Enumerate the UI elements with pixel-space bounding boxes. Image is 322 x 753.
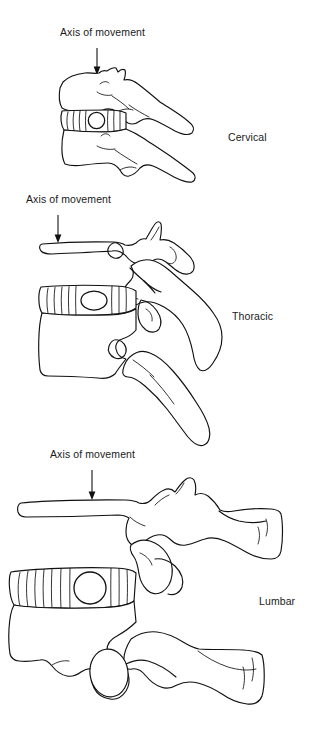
vertebral-axes-illustration (0, 0, 322, 753)
cervical-axis-of-movement-label: Axis of movement (60, 26, 145, 38)
lumbar-axis-marker (74, 572, 106, 604)
lumbar-axis-arrow (89, 470, 96, 500)
cervical-axis-arrow (94, 48, 101, 75)
thoracic-panel (39, 215, 222, 446)
thoracic-region-label: Thoracic (232, 310, 273, 322)
lumbar-intervertebral-disc (9, 568, 136, 609)
thoracic-upper-vertebra (40, 222, 194, 274)
lumbar-lower-posterior (124, 632, 264, 704)
thoracic-intervertebral-disc (39, 285, 136, 315)
cervical-panel (59, 48, 195, 182)
lumbar-panel (9, 470, 283, 704)
lumbar-axis-of-movement-label: Axis of movement (50, 448, 135, 460)
thoracic-lower-vertebra (39, 309, 136, 378)
cervical-lower-vertebra (62, 129, 195, 182)
lumbar-facet-complex (130, 540, 182, 594)
thoracic-axis-marker (81, 291, 107, 310)
cervical-axis-marker (88, 112, 104, 128)
thoracic-axis-arrow (55, 215, 62, 243)
lumbar-region-label: Lumbar (259, 595, 295, 607)
thoracic-axis-of-movement-label: Axis of movement (26, 193, 111, 205)
figure-canvas: Axis of movement Cervical Axis of moveme… (0, 0, 322, 753)
cervical-intervertebral-disc (61, 110, 126, 132)
cervical-region-label: Cervical (228, 131, 267, 143)
